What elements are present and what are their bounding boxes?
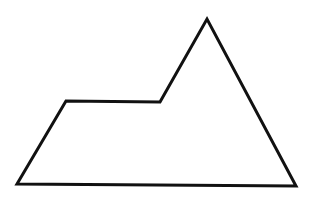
- mountain-polygon: [17, 19, 296, 186]
- diagram-svg: [0, 0, 316, 204]
- diagram-canvas: [0, 0, 316, 204]
